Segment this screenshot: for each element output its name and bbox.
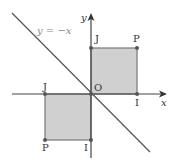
label-upper-J: J [95,34,99,44]
lower-square [45,94,91,140]
y-axis-label: y [81,13,87,23]
point-lower-J [43,92,47,96]
point-upper-I [135,92,139,96]
x-axis-label: x [161,98,167,108]
point-lower-I [89,138,93,142]
point-upper-P [135,46,139,50]
label-lower-J: J [43,82,47,92]
label-upper-P: P [133,34,140,44]
point-origin [89,92,93,96]
point-upper-J [89,46,93,50]
origin-label: O [94,83,102,93]
reflection-diagram [0,0,178,164]
label-upper-I: I [135,98,139,108]
label-lower-I: I [84,143,88,153]
label-lower-P: P [42,143,49,153]
line-equation-label: y = −x [37,26,71,36]
